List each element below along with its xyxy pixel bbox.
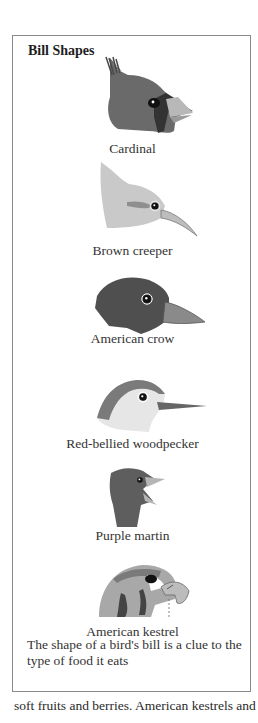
bird-figure-purple-martin: Purple martin (13, 465, 252, 565)
bird-label: Purple martin (13, 528, 252, 544)
bird-label: Cardinal (13, 141, 252, 157)
body-paragraph-text: soft fruits and berries. American kestre… (14, 698, 256, 714)
brown-creeper-head-icon (87, 160, 207, 240)
bird-label: American crow (13, 331, 252, 347)
bird-figure-brown-creeper: Brown creeper (13, 160, 252, 260)
sidebar-caption: The shape of a bird's bill is a clue to … (27, 637, 247, 669)
bird-label: Brown creeper (13, 243, 252, 259)
bird-label: Red-bellied woodpecker (13, 436, 252, 452)
bird-figure-cardinal: Cardinal (13, 53, 252, 153)
woodpecker-head-icon (93, 366, 213, 432)
american-crow-head-icon (87, 268, 212, 340)
american-kestrel-head-icon (95, 559, 205, 619)
bill-shapes-sidebar: Bill Shapes Cardinal Brown creeper (12, 35, 251, 692)
cardinal-head-icon (98, 53, 198, 138)
bird-figure-red-bellied-woodpecker: Red-bellied woodpecker (13, 366, 252, 466)
bird-figure-american-crow: American crow (13, 268, 252, 368)
purple-martin-head-icon (107, 465, 177, 529)
